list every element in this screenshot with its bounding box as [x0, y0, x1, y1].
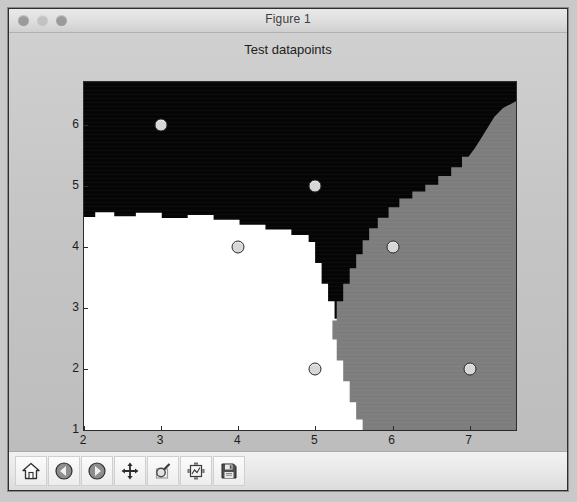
window-titlebar[interactable]: Figure 1	[9, 9, 567, 33]
data-point	[232, 240, 245, 253]
x-tick-label: 5	[311, 433, 318, 447]
x-tick-label: 2	[80, 433, 87, 447]
floppy-disk-icon	[219, 461, 239, 481]
y-tick-mark	[84, 247, 88, 248]
zoom-button[interactable]	[147, 456, 179, 486]
home-icon	[21, 461, 41, 481]
data-point	[463, 362, 476, 375]
subplots-icon	[186, 461, 206, 481]
pan-button[interactable]	[114, 456, 146, 486]
home-button[interactable]	[15, 456, 47, 486]
y-tick-label: 6	[53, 117, 79, 131]
x-tick-label: 7	[465, 433, 472, 447]
data-point	[155, 118, 168, 131]
y-tick-mark	[84, 308, 88, 309]
data-point	[309, 362, 322, 375]
y-tick-label: 1	[53, 422, 79, 436]
decision-regions	[84, 82, 516, 430]
x-tick-label: 6	[388, 433, 395, 447]
x-tick-label: 3	[157, 433, 164, 447]
figure-window: Figure 1 Test datapoints 234567 123456	[8, 8, 568, 491]
x-tick-mark	[238, 426, 239, 430]
y-tick-label: 5	[53, 178, 79, 192]
y-axis-tick-labels: 123456	[49, 81, 79, 429]
x-tick-mark	[393, 426, 394, 430]
data-point	[386, 240, 399, 253]
x-tick-label: 4	[234, 433, 241, 447]
y-tick-mark	[84, 125, 88, 126]
y-tick-label: 3	[53, 300, 79, 314]
window-title: Figure 1	[9, 12, 567, 26]
arrow-right-icon	[87, 461, 107, 481]
magnifier-icon	[153, 461, 173, 481]
configure-subplots-button[interactable]	[180, 456, 212, 486]
move-cross-icon	[120, 461, 140, 481]
figure-canvas: Test datapoints 234567 123456	[9, 33, 567, 451]
matplotlib-toolbar	[9, 451, 567, 490]
back-button[interactable]	[48, 456, 80, 486]
y-tick-mark	[84, 186, 88, 187]
forward-button[interactable]	[81, 456, 113, 486]
plot-axes[interactable]	[83, 81, 517, 431]
save-button[interactable]	[213, 456, 245, 486]
x-tick-mark	[315, 426, 316, 430]
y-tick-label: 2	[53, 361, 79, 375]
y-tick-label: 4	[53, 239, 79, 253]
arrow-left-icon	[54, 461, 74, 481]
data-point	[309, 179, 322, 192]
chart-title: Test datapoints	[9, 42, 567, 57]
x-tick-mark	[470, 426, 471, 430]
y-tick-mark	[84, 369, 88, 370]
x-axis-tick-labels: 234567	[83, 431, 515, 449]
x-tick-mark	[161, 426, 162, 430]
